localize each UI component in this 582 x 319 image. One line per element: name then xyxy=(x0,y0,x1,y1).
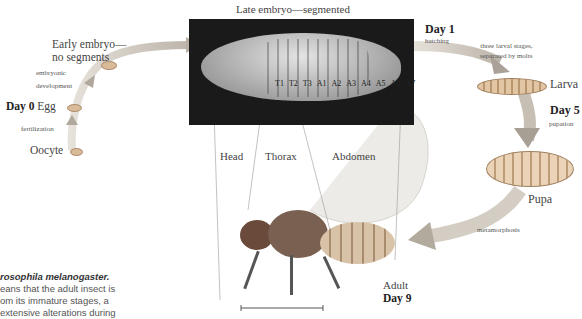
label-line: embryonic xyxy=(36,67,72,80)
egg-label: Egg xyxy=(37,100,56,112)
abdomen-label: Abdomen xyxy=(332,150,375,162)
label-line: development xyxy=(36,80,72,93)
late-embryo-title: Late embryo—segmented xyxy=(236,3,350,15)
segment-label: A4 xyxy=(361,79,371,88)
metamorphosis-label: metamorphosis xyxy=(477,226,520,234)
day1-label: Day 1 xyxy=(425,22,455,37)
caption-title: rosophila melanogaster. xyxy=(0,271,109,282)
pupa-label: Pupa xyxy=(528,192,552,207)
segment-label: A3 xyxy=(346,79,356,88)
day0-egg-label: Day 0 Egg xyxy=(6,100,56,112)
segment-label: A1 xyxy=(317,79,327,88)
caption-line: om its immature stages, a xyxy=(0,295,116,307)
segment-label: T3 xyxy=(303,79,312,88)
head-label: Head xyxy=(220,150,243,162)
day5-label: Day 5 xyxy=(550,103,580,118)
segment-labels: T1 T2 T3 A1 A2 A3 A4 A5 A6 A7 xyxy=(275,79,415,88)
larva-image xyxy=(477,78,547,95)
label-line: no segments xyxy=(52,51,126,64)
segment-label: A5 xyxy=(376,79,386,88)
segment-label: A2 xyxy=(331,79,341,88)
segment-label: A7 xyxy=(405,79,415,88)
segment-label: A6 xyxy=(391,79,401,88)
oocyte-image xyxy=(70,148,83,156)
label-line: separated by molts xyxy=(480,51,533,61)
late-embryo-micrograph: T1 T2 T3 A1 A2 A3 A4 A5 A6 A7 xyxy=(189,19,414,125)
hatching-label: hatching xyxy=(425,37,449,45)
day9-label: Day 9 xyxy=(383,292,411,304)
label-line: Early embryo— xyxy=(52,38,126,51)
thorax-label: Thorax xyxy=(265,150,297,162)
larva-label: Larva xyxy=(550,77,578,92)
caption-line: extensive alterations during xyxy=(0,307,116,319)
day0-label: Day 0 xyxy=(6,100,34,112)
label-line: three larval stages, xyxy=(480,41,533,51)
larval-stages-note: three larval stages, separated by molts xyxy=(480,41,533,61)
early-embryo-label: Early embryo— no segments xyxy=(52,38,126,64)
embryonic-development-label: embryonic development xyxy=(36,67,72,93)
adult-label: Adult xyxy=(383,279,408,291)
egg-image xyxy=(67,104,82,112)
oocyte-label: Oocyte xyxy=(30,144,63,156)
pupation-label: pupation xyxy=(549,120,574,128)
figure-caption: rosophila melanogaster. eans that the ad… xyxy=(0,271,116,319)
caption-line: eans that the adult insect is xyxy=(0,283,116,295)
segment-label: T2 xyxy=(289,79,298,88)
pupa-image xyxy=(486,151,574,187)
adult-fly-image xyxy=(220,200,400,300)
fertilization-label: fertilization xyxy=(21,125,54,133)
segment-label: T1 xyxy=(275,79,284,88)
